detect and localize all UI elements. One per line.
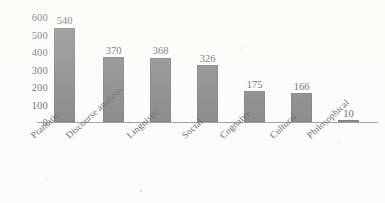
x-category-label-social: Social — [180, 117, 205, 141]
bar-chart: 600 500 400 300 200 100 0 540 370 368 32… — [0, 0, 385, 203]
y-tick-label-300: 300 — [14, 65, 48, 76]
bar-value-label-cultural: 166 — [284, 81, 319, 92]
plot-area: 600 500 400 300 200 100 0 540 370 368 32… — [0, 0, 385, 203]
bar-philosophical — [338, 120, 359, 122]
bar-value-label-social: 326 — [190, 53, 225, 64]
x-category-label-linguistic: Linguistic — [125, 107, 161, 141]
x-category-label-cognaive: Cognaive — [218, 108, 252, 140]
bar-value-label-pramatic: 540 — [47, 15, 82, 26]
bar-value-label-cognaive: 175 — [237, 79, 272, 90]
bar-value-label-linguistic: 368 — [143, 45, 178, 56]
y-tick-label-100: 100 — [14, 100, 48, 111]
y-tick-label-200: 200 — [14, 82, 48, 93]
bar-pramatic — [54, 28, 75, 123]
y-tick-label-600: 600 — [14, 12, 48, 23]
scan-speck — [140, 190, 142, 192]
bar-value-label-discourse-analysis: 370 — [96, 45, 131, 56]
y-tick-label-500: 500 — [14, 30, 48, 41]
y-tick-label-400: 400 — [14, 47, 48, 58]
bar-social — [197, 65, 218, 122]
x-category-label-cultural: Cultural — [268, 112, 298, 141]
